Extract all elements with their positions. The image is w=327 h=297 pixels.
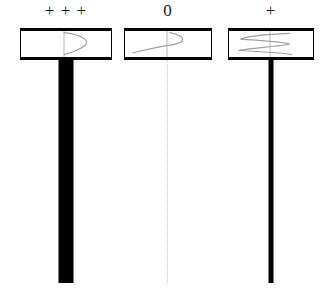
panel-label-strong: + + + <box>20 1 112 21</box>
curve-d-shaped-bulge-right-icon <box>21 31 111 57</box>
panel-label-weak: + <box>228 1 314 21</box>
panel-strong: + + + <box>20 0 112 297</box>
curve-box-strong <box>20 28 112 60</box>
stem-zero <box>167 60 169 283</box>
curve-box-zero <box>124 28 212 60</box>
curve-box-weak <box>228 28 314 60</box>
panel-zero: 0 <box>124 0 212 297</box>
stem-strong <box>59 58 74 283</box>
stem-weak <box>269 58 274 283</box>
panel-weak: + <box>228 0 314 297</box>
curve-zigzag-oscillation-icon <box>229 31 313 57</box>
panel-label-zero: 0 <box>124 1 212 21</box>
figure-canvas: + + + 0 + <box>0 0 327 297</box>
curve-s-shaped-sigmoid-icon <box>125 31 211 57</box>
